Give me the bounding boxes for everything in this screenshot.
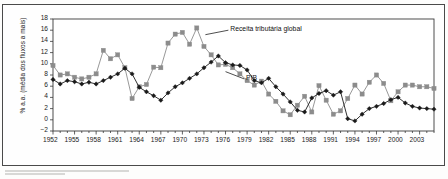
y-tick-label: 14 (22, 36, 48, 43)
x-tick-label: 1967 (151, 136, 166, 143)
y-tick-label: 2 (22, 104, 48, 111)
x-tick-label: 1958 (86, 136, 101, 143)
y-tick-label: −2 (22, 126, 48, 133)
x-tick-label: 1952 (43, 136, 58, 143)
x-tick-label: 2000 (388, 136, 403, 143)
y-tick-label: 10 (22, 59, 48, 66)
y-tick-label: 6 (22, 81, 48, 88)
x-tick-label: 1994 (345, 136, 360, 143)
x-tick-label: 2003 (410, 136, 425, 143)
x-tick-label: 1961 (108, 136, 123, 143)
x-tick-label: 1979 (237, 136, 252, 143)
y-tick-label: 18 (22, 14, 48, 21)
y-tick-label: 12 (22, 48, 48, 55)
caption-placeholder (5, 170, 205, 175)
y-tick-label: 8 (22, 70, 48, 77)
series-label-pib: PIB (246, 74, 257, 81)
x-tick-label: 1982 (259, 136, 274, 143)
x-tick-label: 1955 (65, 136, 80, 143)
caption-line (5, 173, 65, 175)
x-tick-label: 1997 (366, 136, 381, 143)
x-tick-label: 1973 (194, 136, 209, 143)
y-tick-label: 4 (22, 92, 48, 99)
x-tick-label: 1991 (323, 136, 338, 143)
caption-line (5, 170, 129, 172)
x-tick-label: 1970 (172, 136, 187, 143)
x-tick-label: 1976 (216, 136, 231, 143)
x-tick-label: 1985 (280, 136, 295, 143)
figure-container: % a.a. (média dos fluxos a mais) 1816141… (0, 0, 448, 179)
y-tick-label: 0 (22, 115, 48, 122)
x-tick-label: 1988 (302, 136, 317, 143)
y-tick-label: 16 (22, 25, 48, 32)
series-label-receita-tributaria-global: Receita tributária global (230, 25, 301, 32)
x-tick-label: 1964 (129, 136, 144, 143)
